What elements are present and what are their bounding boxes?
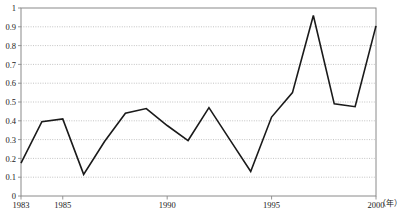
x-tick-label-3: 1995 [263, 200, 280, 210]
x-tick-label-2: 1990 [159, 200, 176, 210]
y-tick-label-10: 1 [12, 3, 16, 13]
y-axis-ticks: 00.10.20.30.40.50.60.70.80.91 [5, 3, 21, 201]
x-tick-label-0: 1983 [13, 200, 30, 210]
y-tick-label-5: 0.5 [5, 97, 16, 107]
line-chart: 00.10.20.30.40.50.60.70.80.91 1983198519… [0, 0, 403, 221]
chart-container: 00.10.20.30.40.50.60.70.80.91 1983198519… [0, 0, 403, 221]
y-tick-label-7: 0.7 [5, 60, 16, 70]
x-axis-ticks: 19831985199019952000 [13, 196, 385, 210]
y-tick-label-6: 0.6 [5, 78, 16, 88]
y-tick-label-9: 0.9 [5, 22, 16, 32]
y-tick-label-2: 0.2 [5, 154, 16, 164]
x-axis-unit-label: （年） [378, 198, 402, 208]
y-tick-label-8: 0.8 [5, 41, 16, 51]
y-tick-label-1: 0.1 [5, 172, 16, 182]
x-tick-label-1: 1985 [54, 200, 71, 210]
y-tick-label-3: 0.3 [5, 135, 16, 145]
y-tick-label-4: 0.4 [5, 116, 16, 126]
